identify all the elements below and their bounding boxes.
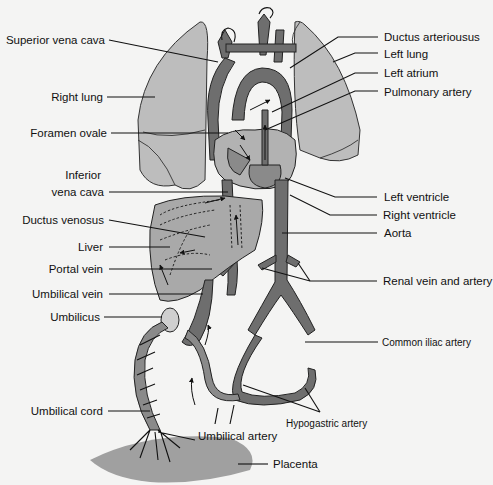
label-superior-vena-cava: Superior vena cava — [6, 34, 106, 46]
label-aorta: Aorta — [384, 227, 412, 239]
label-ductus-venosus: Ductus venosus — [22, 214, 104, 226]
iliac-loop — [233, 335, 317, 405]
label-left-lung: Left lung — [384, 48, 428, 60]
neck-vessels — [218, 8, 296, 62]
label-common-iliac-artery: Common iliac artery — [382, 337, 471, 348]
label-portal-vein: Portal vein — [49, 263, 103, 275]
label-hypogastric-artery: Hypogastric artery — [286, 418, 367, 429]
label-left-ventricle: Left ventricle — [384, 191, 449, 203]
label-umbilical-vein: Umbilical vein — [32, 288, 103, 300]
right-lung-shape — [138, 22, 208, 189]
label-renal-vein-artery: Renal vein and artery — [383, 275, 493, 287]
label-right-ventricle: Right ventricle — [383, 209, 456, 221]
label-right-lung: Right lung — [51, 91, 103, 103]
label-inferior-vena-cava-line2: vena cava — [52, 186, 105, 198]
label-umbilicus: Umbilicus — [50, 311, 100, 323]
label-umbilical-artery: Umbilical artery — [198, 430, 277, 442]
label-placenta: Placenta — [273, 458, 318, 470]
label-ductus-arteriosus: Ductus arteriousus — [384, 31, 480, 43]
left-lung-shape — [292, 21, 360, 160]
label-pulmonary-artery: Pulmonary artery — [384, 86, 472, 98]
label-liver: Liver — [78, 241, 103, 253]
label-umbilical-cord: Umbilical cord — [31, 405, 103, 417]
placenta-shape — [90, 436, 253, 482]
label-foramen-ovale: Foramen ovale — [30, 127, 107, 139]
label-inferior-vena-cava-line1: Inferior — [65, 169, 101, 181]
umbilical-artery-shape — [185, 330, 240, 401]
label-left-atrium: Left atrium — [384, 67, 438, 79]
fetal-circulation-diagram: Superior vena cava Right lung Foramen ov… — [0, 0, 493, 485]
